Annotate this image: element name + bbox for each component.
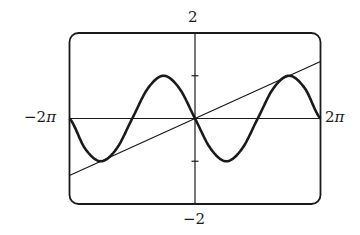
x-max-label: 2π bbox=[325, 110, 344, 125]
pi-symbol: π bbox=[335, 108, 345, 126]
y-min-label: −2 bbox=[183, 212, 205, 227]
pi-symbol: π bbox=[46, 108, 56, 126]
x-min-label: −2π bbox=[24, 110, 56, 125]
x-min-number: −2 bbox=[24, 108, 46, 126]
y-max-label: 2 bbox=[188, 10, 198, 25]
x-max-number: 2 bbox=[325, 108, 335, 126]
